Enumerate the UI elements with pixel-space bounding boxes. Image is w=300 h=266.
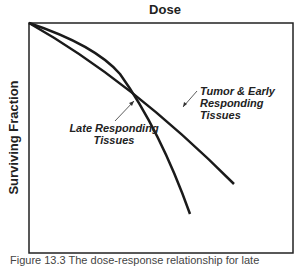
late-label: Late Responding Tissues bbox=[64, 122, 164, 146]
late-responding-curve bbox=[29, 23, 190, 214]
figure-caption: Figure 13.3 The dose-response relationsh… bbox=[10, 254, 259, 266]
tumor-label: Tumor & Early Responding Tissues bbox=[200, 85, 275, 121]
